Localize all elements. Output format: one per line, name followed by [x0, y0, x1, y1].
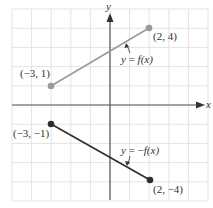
neg-f-equation-label: y = −f(x) [120, 144, 159, 157]
point-label-2-4: (2, 4) [153, 30, 177, 43]
y-axis-label: y [105, 0, 111, 12]
point-label-neg3-neg1: (−3, −1) [13, 127, 50, 140]
point-label-neg3-1: (−3, 1) [20, 67, 50, 80]
x-axis-label: x [205, 98, 211, 110]
f-equation-label: y = f(x) [120, 53, 153, 66]
point-neg3-1 [48, 83, 55, 90]
point-label-2-neg4: (2, −4) [153, 183, 183, 196]
x-axis-arrow-icon [196, 102, 205, 109]
graph-figure: x y (−3, 1) (2, 4) (−3, −1) (2, −4) y = … [0, 0, 213, 208]
point-2-4 [146, 25, 153, 32]
y-axis-arrow-icon [107, 13, 114, 22]
